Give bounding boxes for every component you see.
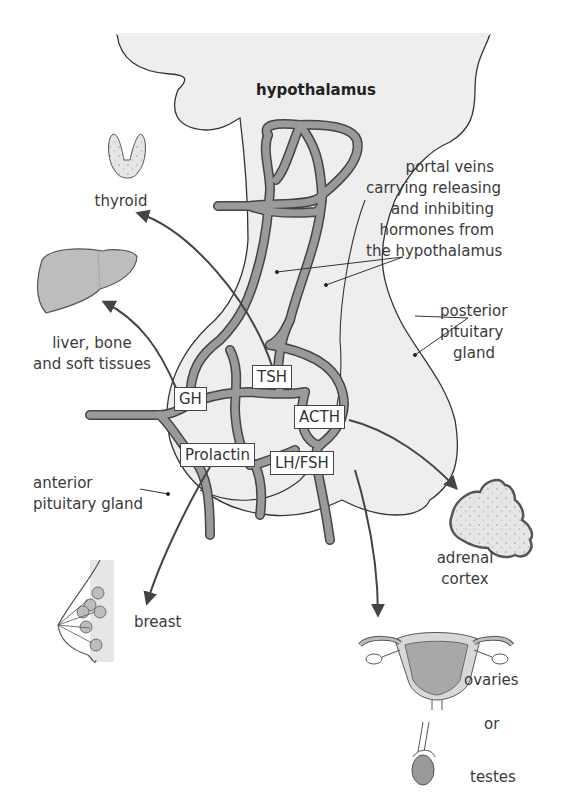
liver-line-1: liver, bone xyxy=(22,333,162,354)
hormone-box-gh: GH xyxy=(174,387,207,411)
thyroid-icon xyxy=(109,134,146,178)
posterior-pituitary-label: posterior pituitary gland xyxy=(440,301,495,364)
hormone-box-prolactin: Prolactin xyxy=(180,443,255,467)
breast-label: breast xyxy=(134,612,181,633)
adrenal-label: adrenal cortex xyxy=(430,548,500,590)
anterior-pituitary-leader xyxy=(140,489,170,496)
anterior-pituitary-label: anterior pituitary gland xyxy=(33,473,143,515)
or-label: or xyxy=(484,714,499,735)
liver-icon xyxy=(38,249,137,313)
hormone-box-acth: ACTH xyxy=(294,405,345,429)
testes-icon xyxy=(412,722,435,785)
thyroid-label: thyroid xyxy=(86,191,156,212)
portal-veins-line-4: hormones from xyxy=(366,220,494,241)
portal-veins-line-1: portal veins xyxy=(366,157,494,178)
hypothalamus-label: hypothalamus xyxy=(256,80,376,101)
hormone-box-lhfsh: LH/FSH xyxy=(270,451,334,475)
breast-icon xyxy=(58,560,114,662)
liver-line-2: and soft tissues xyxy=(22,354,162,375)
portal-veins-label: portal veins carrying releasing and inhi… xyxy=(366,157,494,262)
portal-veins-line-3: and inhibiting xyxy=(366,199,494,220)
adrenal-line-1: adrenal xyxy=(430,548,500,569)
testes-label: testes xyxy=(470,767,516,788)
adrenal-line-2: cortex xyxy=(430,569,500,590)
anterior-line-1: anterior xyxy=(33,473,143,494)
adrenal-cortex-icon xyxy=(450,480,532,557)
posterior-line-1: posterior xyxy=(440,301,495,322)
anterior-line-2: pituitary gland xyxy=(33,494,143,515)
liver-label: liver, bone and soft tissues xyxy=(22,333,162,375)
portal-veins-line-2: carrying releasing xyxy=(366,178,494,199)
hormone-box-tsh: TSH xyxy=(252,365,292,389)
posterior-line-2: pituitary xyxy=(440,322,495,343)
ovaries-label: ovaries xyxy=(464,670,519,691)
portal-veins-line-5: the hypothalamus xyxy=(366,241,494,262)
posterior-line-3: gland xyxy=(440,343,495,364)
